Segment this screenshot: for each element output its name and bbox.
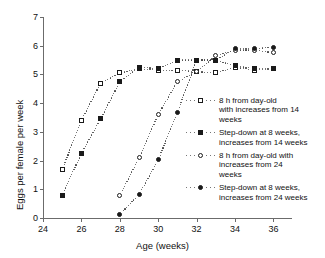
series-line-dot [170,128,171,129]
series-line-dot [141,189,142,190]
series-line-dot [142,187,143,188]
series-line-dot [194,64,195,65]
series-line-dot [192,69,193,70]
series-line-dot [265,47,266,48]
data-point [175,110,180,115]
data-point [271,45,276,50]
data-point [213,58,218,63]
series-line-dot [201,59,202,60]
series-line-dot [161,150,162,151]
legend-marker-sample [186,128,216,137]
data-point [233,46,238,51]
series-line-dot [135,198,136,199]
series-line-dot [150,173,151,174]
series-line-dot [189,79,190,80]
series-line-dot [262,47,263,48]
data-point [117,212,122,217]
series-line-dot [240,48,241,49]
chart-figure: 01234567 24262830323436 Eggs per female … [0,0,325,258]
series-line-dot [130,203,131,204]
legend-marker-open-circle-icon [198,153,203,158]
series-line-dot [226,53,227,54]
series-line-dot [131,201,132,202]
legend-label: 8 h from day-old with increases from 14 … [219,96,299,124]
series-line-dot [188,82,189,83]
legend-label: 8 h from day-old with increases from 24 … [219,151,293,179]
legend-marker-filled-circle-icon [198,185,203,190]
series-line-dot [152,169,153,170]
series-line-dot [210,59,211,60]
series-line-dot [224,54,225,55]
series-line-dot [186,87,187,88]
series-line-dot [126,207,127,208]
series-line-dot [191,72,192,73]
chart-legend: 8 h from day-old with increases from 14 … [186,96,322,206]
series-line-dot [168,133,169,134]
legend-entry-4[interactable]: Step-down at 8 weeks, increases from 24 … [186,183,322,202]
series-line-dot [160,152,161,153]
series-line-dot [259,48,260,49]
series-line-dot [155,164,156,165]
series-line-dot [123,210,124,211]
series-line-dot [175,117,176,118]
series-line-dot [145,182,146,183]
legend-marker-open-square-icon [198,98,203,103]
series-line-dot [169,131,170,132]
series-line-dot [222,56,223,57]
legend-label: Step-down at 8 weeks, increases from 24 … [219,183,307,202]
series-line-dot [171,126,172,127]
series-line-dot [230,51,231,52]
series-line-dot [167,136,168,137]
series-line-dot [267,47,268,48]
series-line-dot [243,48,244,49]
legend-marker-filled-square-icon [198,130,203,135]
series-line-dot [191,74,192,75]
legend-label: Step-down at 8 weeks, increases from 14 … [219,128,307,147]
series-line-dot [219,57,220,58]
series-line-dot [181,99,182,100]
series-line-dot [172,124,173,125]
series-line-dot [146,180,147,181]
series-line-dot [193,67,194,68]
series-line-dot [187,84,188,85]
series-line-dot [124,208,125,209]
series-line-dot [147,178,148,179]
legend-entry-3[interactable]: 8 h from day-old with increases from 24 … [186,151,322,179]
series-line-dot [180,102,181,103]
series-line-dot [180,104,181,105]
data-point [252,46,257,51]
series-line-dot [163,145,164,146]
series-line-dot [128,205,129,206]
series-line-dot [183,94,184,95]
series-line-dot [207,59,208,60]
series-line-dot [182,97,183,98]
series-line-dot [248,48,249,49]
series-line-dot [149,175,150,176]
legend-marker-sample [186,151,216,160]
series-line-dot [162,147,163,148]
data-point [156,157,161,162]
series-line-dot [160,155,161,156]
legend-entry-1[interactable]: 8 h from day-old with increases from 14 … [186,96,322,124]
series-line-dot [204,59,205,60]
series-line-dot [245,48,246,49]
series-line-dot [184,92,185,93]
data-point [137,192,142,197]
legend-marker-sample [186,183,216,192]
legend-entry-2[interactable]: Step-down at 8 weeks, increases from 14 … [186,128,322,147]
series-line-dot [151,171,152,172]
series-line-dot [228,52,229,53]
series-line-dot [165,140,166,141]
series-line-dot [154,166,155,167]
series-line-dot [164,143,165,144]
series-line-dot [173,121,174,122]
series-line-dot [179,107,180,108]
legend-marker-sample [186,96,216,105]
series-line-dot [144,185,145,186]
series-line-dot [174,119,175,120]
series-line-dot [185,89,186,90]
series-line-dot [133,199,134,200]
series-line-dot [166,138,167,139]
series-line-dot [190,77,191,78]
data-point [194,58,199,63]
